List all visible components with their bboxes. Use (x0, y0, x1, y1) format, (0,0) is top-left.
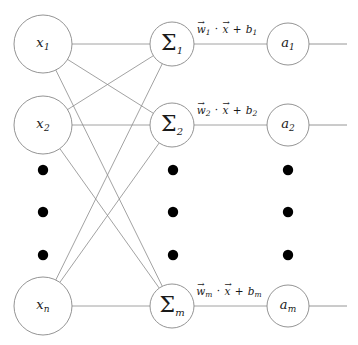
ellipsis-dot-input-2 (38, 207, 48, 217)
ellipsis-dot-input-1 (38, 165, 48, 175)
node-sum2[interactable] (150, 103, 194, 147)
node-xn[interactable] (14, 277, 72, 335)
diagram-canvas (0, 0, 358, 345)
input-to-sum-edges (56, 44, 162, 306)
ellipsis-dot-activation-3 (283, 250, 293, 260)
node-a1[interactable] (267, 23, 309, 65)
node-sum1[interactable] (150, 22, 194, 66)
ellipsis-dot-summation-2 (168, 207, 178, 217)
node-summ[interactable] (150, 284, 194, 328)
node-x1[interactable] (14, 15, 72, 73)
node-circles (14, 15, 309, 335)
connection-x2-sum1 (68, 56, 154, 110)
node-x2[interactable] (14, 96, 72, 154)
connection-xn-sum1 (56, 64, 162, 280)
output-lines (309, 44, 347, 306)
ellipsis-dot-input-3 (38, 250, 48, 260)
node-am[interactable] (267, 285, 309, 327)
ellipsis-dot-summation-1 (168, 165, 178, 175)
node-a2[interactable] (267, 104, 309, 146)
ellipsis-dot-activation-2 (283, 207, 293, 217)
sum-to-activation-edges (194, 44, 267, 306)
neural-network-diagram: x1x2xnΣ1Σ2Σma1a2am w1 · x + b1w2 · x + b… (0, 0, 358, 345)
connection-x1-sum2 (68, 59, 154, 113)
connection-x2-summ (60, 149, 159, 288)
connection-xn-sum2 (60, 143, 159, 282)
ellipsis-dot-summation-3 (168, 250, 178, 260)
ellipsis-dots (38, 165, 293, 260)
connection-x1-summ (56, 70, 162, 286)
ellipsis-dot-activation-1 (283, 165, 293, 175)
